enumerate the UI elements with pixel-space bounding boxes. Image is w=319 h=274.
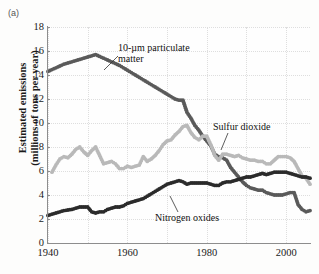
y-tick-mark (47, 195, 50, 196)
y-axis-label-line2: (millions of tons per year) (29, 23, 41, 193)
annotation-particulate: 10-µm particulate matter (118, 42, 214, 64)
y-tick-mark (47, 171, 50, 172)
x-tick-label: 1960 (107, 247, 147, 258)
y-axis-line (47, 26, 48, 244)
y-tick-mark (47, 27, 50, 28)
y-axis-label: Estimated emissions (millions of tons pe… (17, 23, 41, 193)
y-tick-mark (47, 75, 50, 76)
y-tick-mark (47, 123, 50, 124)
y-tick-mark (47, 147, 50, 148)
y-tick-mark (47, 243, 50, 244)
x-axis-line (47, 243, 311, 244)
y-tick-mark (47, 99, 50, 100)
y-tick-mark (47, 51, 50, 52)
y-tick-label: 2 (30, 214, 44, 224)
x-tick-label: 1940 (28, 247, 68, 258)
series-sulfur-dioxide (50, 124, 312, 187)
y-tick-mark (47, 219, 50, 220)
y-axis-label-line1: Estimated emissions (17, 23, 29, 193)
x-tick-label: 2000 (266, 247, 306, 258)
x-tick-label: 1980 (187, 247, 227, 258)
annotation-sulfur-dioxide: Sulfur dioxide (213, 121, 301, 132)
panel-label: (a) (8, 8, 19, 18)
annotation-nitrogen-oxides: Nitrogen oxides (155, 212, 251, 223)
figure-panel: (a) 024681012141618 1940196019802000 Est… (0, 0, 319, 274)
